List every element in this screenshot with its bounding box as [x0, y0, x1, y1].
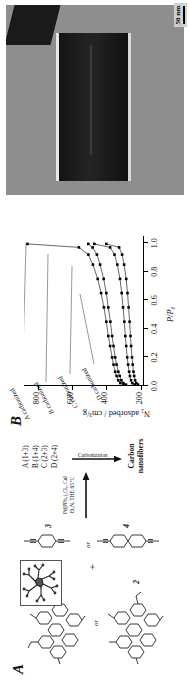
data-point	[111, 335, 114, 338]
reaction-conditions: Pd(PPh₃)₂Cl₂, CuI Et₃N, THF, 65 ºC	[62, 470, 75, 520]
x-tick-label: 0.2	[150, 347, 159, 367]
data-point	[125, 278, 128, 281]
isotherm-plot-area: 200400600800 0.00.20.40.60.81.0 A carbon…	[24, 236, 144, 386]
data-point	[120, 379, 123, 382]
data-point	[122, 306, 125, 309]
data-point	[116, 263, 119, 266]
nanofiber-primary	[58, 33, 130, 181]
final-product-line1: Carbon	[127, 444, 136, 469]
scale-bar-line	[183, 6, 185, 24]
fiber-edge-top	[56, 33, 59, 181]
panel-b-adsorption-isotherm: B N₂ adsorbed / cm³/g P/P₀ 200400600800 …	[0, 215, 190, 430]
structure-3-number: 3	[44, 524, 53, 528]
data-point	[131, 382, 134, 385]
data-point	[125, 383, 128, 386]
data-point	[120, 292, 123, 295]
data-point	[129, 375, 132, 378]
fiber-edge-bottom	[128, 33, 131, 181]
data-point	[102, 278, 105, 281]
data-point	[119, 278, 122, 281]
data-point	[109, 345, 112, 348]
data-point	[112, 345, 115, 348]
scale-bar: 50 nm	[174, 3, 187, 27]
figure-root: A 1 or	[0, 0, 190, 680]
data-point	[121, 253, 124, 256]
data-point	[122, 382, 125, 385]
data-point	[131, 356, 134, 359]
structure-4-number: 4	[122, 524, 131, 528]
data-point	[130, 345, 133, 348]
carbonization-label: Carbonization	[78, 452, 107, 458]
final-product-line2: nanofibers	[136, 439, 145, 474]
data-point	[118, 375, 121, 378]
y-tick-label: 200	[135, 392, 144, 420]
y-tick	[106, 386, 107, 390]
data-point	[111, 356, 114, 359]
data-point	[26, 243, 29, 246]
data-point	[126, 356, 129, 359]
data-point	[113, 253, 116, 256]
data-point	[114, 370, 117, 373]
x-tick	[144, 271, 148, 272]
data-point	[128, 370, 131, 373]
data-point	[127, 306, 130, 309]
x-tick-label: 0.6	[150, 290, 159, 310]
structure-3-diethynylbenzene	[22, 528, 78, 554]
data-point	[107, 335, 110, 338]
data-point	[107, 306, 110, 309]
structure-2-hexaarylbenzene-alt	[104, 588, 164, 666]
data-point	[129, 335, 132, 338]
reaction-arrow	[78, 472, 96, 518]
data-point	[125, 345, 128, 348]
data-point	[99, 263, 102, 266]
reaction-conditions-line2: Et₃N, THF, 65 ºC	[69, 477, 75, 513]
data-point	[117, 379, 120, 382]
data-point	[115, 375, 118, 378]
product-item-b: B (1+4)	[32, 445, 42, 468]
data-point	[117, 370, 120, 373]
structure-2-number: 2	[132, 580, 141, 584]
y-tick	[141, 386, 142, 390]
x-tick	[144, 242, 148, 243]
data-point	[96, 253, 99, 256]
data-point	[100, 292, 103, 295]
x-axis-title: P/P₀	[166, 307, 175, 322]
data-point	[126, 292, 129, 295]
reaction-conditions-line1: Pd(PPh₃)₂Cl₂, CuI	[62, 476, 68, 514]
data-point	[133, 375, 136, 378]
data-point	[92, 263, 95, 266]
rotated-figure-canvas: A 1 or	[0, 0, 190, 680]
product-item-d: D (2+4)	[51, 445, 61, 468]
product-item-a: A (1+3)	[22, 445, 32, 468]
product-item-c: C (2+3)	[41, 445, 51, 468]
data-point	[127, 363, 130, 366]
data-point	[93, 243, 96, 246]
panel-c-label: C	[6, 200, 23, 210]
data-point	[124, 335, 127, 338]
x-tick	[144, 356, 148, 357]
data-point	[119, 382, 122, 385]
scale-bar-text: 50 nm	[175, 6, 182, 24]
series-line	[27, 244, 123, 385]
panel-a-synthesis-scheme: A 1 or	[0, 430, 190, 680]
isotherm-curves	[24, 236, 144, 386]
data-point	[118, 246, 121, 249]
data-point	[112, 363, 115, 366]
data-point	[87, 253, 90, 256]
product-list: A (1+3) B (1+4) C (2+3) D (2+4)	[22, 445, 60, 468]
plus-sign: +	[86, 564, 98, 570]
data-point	[123, 263, 126, 266]
x-tick-label: 1.0	[150, 233, 159, 253]
data-point	[87, 243, 90, 246]
molecular-model-inset	[20, 560, 62, 606]
x-tick	[144, 385, 148, 386]
data-point	[105, 243, 108, 246]
data-point	[78, 246, 81, 249]
x-tick-label: 0.4	[150, 319, 159, 339]
data-point	[91, 246, 94, 249]
x-tick	[144, 299, 148, 300]
data-point	[109, 246, 112, 249]
data-point	[134, 379, 137, 382]
data-point	[128, 320, 131, 323]
y-tick	[72, 386, 73, 390]
